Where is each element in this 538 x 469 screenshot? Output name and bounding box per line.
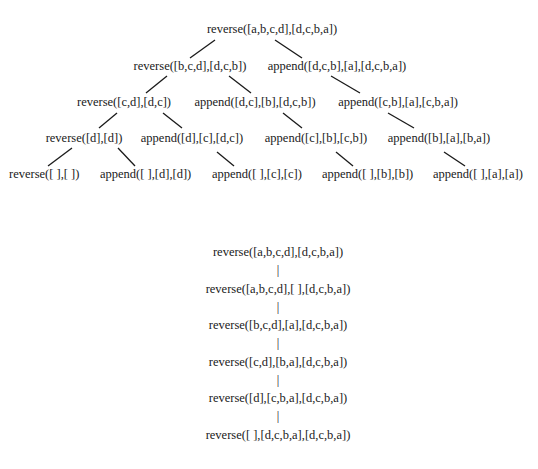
edge-n9-n14 (444, 152, 465, 166)
edge-n0-n2 (275, 40, 302, 58)
chain-node: reverse([a,b,c,d],[d,c,b,a]) (213, 245, 343, 259)
chain-connector: | (277, 409, 280, 423)
edge-n0-n1 (190, 40, 215, 58)
tree-node-append: append([ ],[b],[b]) (322, 167, 413, 181)
tree-node-root: reverse([a,b,c,d],[d,c,b,a]) (207, 22, 337, 36)
chain-connector: | (277, 263, 280, 277)
edge-n8-n13 (336, 152, 353, 166)
edge-n5-n9 (388, 113, 414, 128)
chain-node: reverse([c,d],[b,a],[d,c,b,a]) (209, 355, 347, 369)
edge-n7-n12 (217, 152, 234, 166)
tree-node-reverse: reverse([d],[d]) (46, 131, 123, 145)
tree-node-append: append([ ],[a],[a]) (433, 167, 523, 181)
chain-node: reverse([a,b,c,d],[ ],[d,c,b,a]) (206, 282, 351, 296)
edge-n6-n11 (118, 148, 135, 166)
tree-node-append: append([d,c],[b],[d,c,b]) (194, 95, 315, 109)
edge-n1-n4 (229, 76, 251, 93)
tree-node-reverse: reverse([c,d],[d,c]) (77, 95, 171, 109)
chain-node: reverse([ ],[d,c,b,a],[d,c,b,a]) (206, 428, 351, 442)
tree-node-append: append([c,b],[a],[c,b,a]) (338, 95, 458, 109)
chain-connector: | (277, 373, 280, 387)
tree-node-append: append([c],[b],[c,b]) (265, 131, 367, 145)
tree-node-reverse: reverse([ ],[ ]) (9, 167, 79, 181)
chain-node: reverse([b,c,d],[a],[d,c,b,a]) (209, 318, 347, 332)
edge-n3-n6 (99, 113, 117, 128)
chain-connector: | (277, 300, 280, 314)
edge-n3-n7 (163, 113, 182, 128)
edge-n2-n5 (331, 76, 360, 93)
tree-node-reverse: reverse([b,c,d],[d,c,b]) (134, 59, 247, 73)
edge-n1-n3 (146, 76, 167, 93)
chain-node: reverse([d],[c,b,a],[d,c,b,a]) (209, 391, 347, 405)
chain-connector: | (277, 336, 280, 350)
tree-node-append: append([ ],[c],[c]) (212, 167, 302, 181)
tree-node-append: append([b],[a],[b,a]) (388, 131, 490, 145)
edge-n6-n10 (48, 148, 72, 166)
edge-n4-n8 (283, 113, 302, 128)
tree-node-append: append([d],[c],[d,c]) (141, 131, 243, 145)
tree-node-append: append([d,c,b],[a],[d,c,b,a]) (268, 59, 406, 73)
tree-node-append: append([ ],[d],[d]) (100, 167, 191, 181)
